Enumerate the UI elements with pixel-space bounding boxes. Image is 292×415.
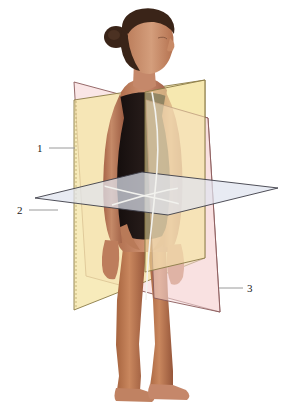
callout-3: 3: [219, 282, 253, 294]
callout-3-label: 3: [247, 282, 253, 294]
anatomical-planes-figure: 1 2 3: [0, 0, 292, 415]
callout-2-label: 2: [17, 204, 23, 216]
callout-2: 2: [17, 204, 58, 216]
callout-1: 1: [37, 142, 75, 154]
callout-1-label: 1: [37, 142, 43, 154]
planes-illustration: 1 2 3: [0, 0, 292, 415]
